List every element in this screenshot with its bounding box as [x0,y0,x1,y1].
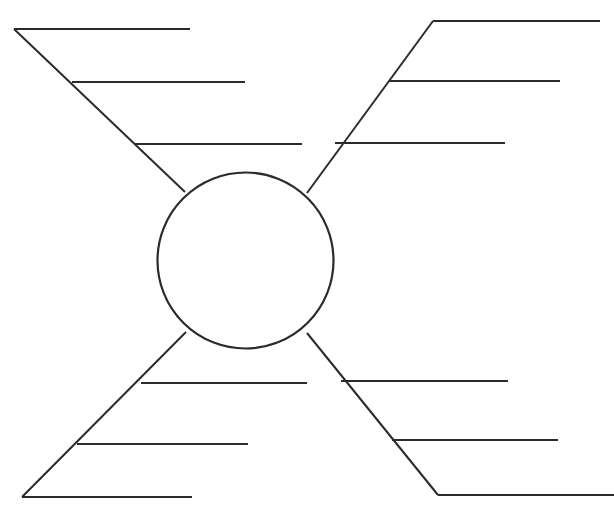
branch-bottom-right [307,333,614,495]
branch-stem-top-left [14,29,185,192]
branch-top-left [14,29,302,192]
branch-bottom-left [22,332,307,497]
center-topic-circle[interactable] [158,173,334,349]
branch-top-right [307,21,600,193]
worksheet-page [0,0,614,508]
branch-stem-bottom-right [307,333,438,495]
branch-stem-bottom-left [22,332,186,497]
branch-stem-top-right [307,21,433,193]
cluster-diagram [0,0,614,508]
